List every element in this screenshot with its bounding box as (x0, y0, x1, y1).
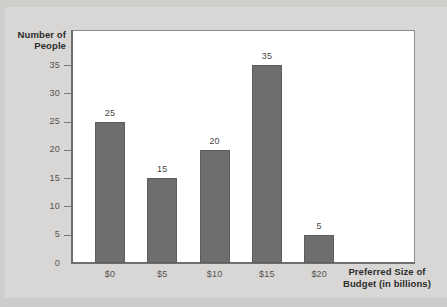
bar-value-label: 20 (190, 136, 240, 146)
y-tick-mark (64, 150, 71, 151)
y-tick-label: 20 (34, 144, 60, 154)
y-axis-title: Number of People (2, 29, 66, 51)
y-tick-mark (64, 235, 71, 236)
page-scan-edge-top (0, 0, 447, 7)
bar-usd-10 (200, 150, 230, 263)
page-scan-edge-bottom (0, 298, 447, 307)
bar-usd-0 (95, 122, 125, 263)
y-tick-15: 15 (0, 173, 60, 184)
x-tick-label: $5 (136, 269, 188, 279)
y-axis-title-line-1: Number of (2, 29, 66, 40)
y-tick-35: 35 (0, 60, 60, 71)
y-tick-0: 0 (0, 258, 60, 269)
x-tick-label: $10 (189, 269, 241, 279)
x-axis-title-line-2: Budget (in billions) (330, 278, 444, 290)
y-tick-5: 5 (0, 229, 60, 240)
bar-usd-15 (252, 65, 282, 263)
x-tick-label: $15 (241, 269, 293, 279)
y-tick-label: 10 (34, 201, 60, 211)
y-tick-mark (64, 178, 71, 179)
y-tick-label: 15 (34, 173, 60, 183)
y-tick-10: 10 (0, 201, 60, 212)
x-axis-title: Preferred Size of Budget (in billions) (330, 266, 444, 290)
bar-value-label: 15 (137, 164, 187, 174)
y-tick-label: 25 (34, 116, 60, 126)
bar-usd-5 (147, 178, 177, 263)
y-tick-mark (64, 65, 71, 66)
x-axis-title-line-1: Preferred Size of (330, 266, 444, 278)
bar-usd-20 (304, 235, 334, 263)
y-tick-mark (64, 122, 71, 123)
y-tick-20: 20 (0, 144, 60, 155)
bar-value-label: 5 (294, 221, 344, 231)
bar-chart-figure: Number of People 05101520253035 25152035… (0, 0, 447, 307)
y-tick-mark (64, 206, 71, 207)
y-tick-label: 0 (34, 258, 60, 268)
bar-value-label: 25 (85, 108, 135, 118)
y-tick-25: 25 (0, 116, 60, 127)
y-axis-title-line-2: People (2, 40, 66, 51)
x-tick-label: $0 (84, 269, 136, 279)
y-tick-label: 5 (34, 229, 60, 239)
bar-value-label: 35 (242, 51, 292, 61)
y-tick-label: 35 (34, 60, 60, 70)
y-tick-mark (64, 93, 71, 94)
y-tick-30: 30 (0, 88, 60, 99)
y-axis-line (71, 30, 73, 264)
y-tick-label: 30 (34, 88, 60, 98)
